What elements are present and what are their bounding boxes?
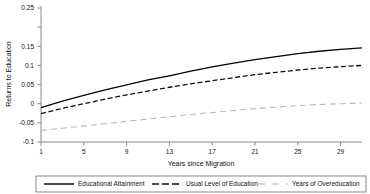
legend-label-years-of-overeducation: Years of Overeducation xyxy=(292,180,360,187)
series-line-educational-attainment xyxy=(41,48,362,108)
legend-label-educational-attainment: Educational Attainment xyxy=(78,180,145,187)
y-axis-ticks xyxy=(38,8,42,142)
y-tick-label-1: 0.15 xyxy=(21,43,34,50)
x-tick-label-5: 21 xyxy=(251,148,259,155)
legend-label-usual-level-of-education: Usual Level of Education xyxy=(186,180,258,187)
x-tick-label-6: 25 xyxy=(294,148,302,155)
y-tick-label-4: 0 xyxy=(30,100,34,107)
y-tick-label-2: 0.1 xyxy=(25,62,34,69)
series-line-usual-level-of-education xyxy=(41,65,362,113)
x-tick-label-7: 29 xyxy=(337,148,345,155)
x-axis-title: Years since Migration xyxy=(168,160,235,168)
y-tick-label-3: 0.05 xyxy=(21,81,34,88)
y-tick-label-5: -0.05 xyxy=(19,119,34,126)
x-tick-label-0: 1 xyxy=(39,148,43,155)
y-axis-title: Returns to Education xyxy=(5,41,12,106)
series-line-years-of-overeducation xyxy=(41,103,362,131)
y-tick-label-6: -0.1 xyxy=(23,138,35,145)
x-tick-label-1: 5 xyxy=(82,148,86,155)
x-tick-label-3: 13 xyxy=(166,148,174,155)
x-tick-label-4: 17 xyxy=(209,148,217,155)
chart-figure: 0.25 0.15 0.1 0.05 0 -0.05 -0.1 Returns … xyxy=(0,0,370,194)
series-group xyxy=(41,48,362,131)
chart-svg: 0.25 0.15 0.1 0.05 0 -0.05 -0.1 Returns … xyxy=(0,0,370,194)
x-tick-label-2: 9 xyxy=(125,148,129,155)
x-axis-ticks xyxy=(41,142,341,146)
y-tick-label-0: 0.25 xyxy=(21,4,34,11)
